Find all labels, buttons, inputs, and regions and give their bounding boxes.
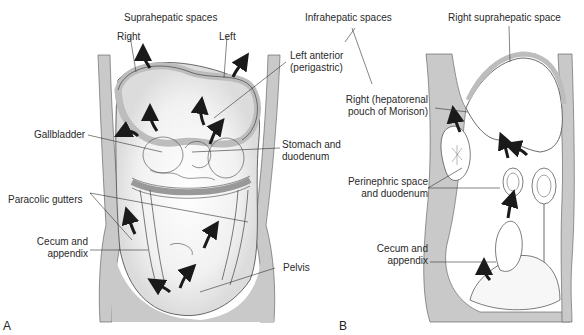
label-right-suprahepatic-space: Right suprahepatic space: [448, 12, 561, 23]
label-cecum-and-a: Cecum and: [30, 236, 88, 247]
panel-letter-b: B: [339, 319, 347, 333]
label-pouch-of-morison: pouch of Morison): [320, 106, 428, 117]
label-appendix-b: appendix: [340, 255, 428, 266]
panel-a-drawing: [88, 36, 286, 322]
label-left-anterior: Left anterior: [290, 50, 343, 61]
panel-b-drawing: [345, 26, 574, 322]
label-cecum-and-b: Cecum and: [340, 243, 428, 254]
label-and-duodenum: and duodenum: [320, 188, 428, 199]
label-right-suprahepatic: Right: [117, 31, 140, 42]
label-perigastric: (perigastric): [290, 62, 343, 73]
label-perinephric-space: Perinephric space: [320, 176, 428, 187]
label-pelvis: Pelvis: [283, 262, 310, 273]
label-infrahepatic-spaces: Infrahepatic spaces: [305, 12, 392, 23]
label-left-suprahepatic: Left: [219, 31, 236, 42]
label-duodenum: duodenum: [282, 151, 329, 162]
label-right-hepatorenal: Right (hepatorenal: [320, 94, 428, 105]
label-stomach-and: Stomach and: [282, 139, 341, 150]
label-paracolic-gutters: Paracolic gutters: [8, 194, 82, 205]
label-appendix-a: appendix: [30, 248, 88, 259]
label-suprahepatic-spaces: Suprahepatic spaces: [124, 12, 217, 23]
label-gallbladder: Gallbladder: [34, 129, 85, 140]
panel-letter-a: A: [3, 319, 11, 333]
